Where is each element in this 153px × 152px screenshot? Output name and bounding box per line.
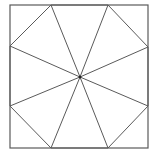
- center-point: [79, 76, 82, 79]
- square-pinwheel-diagram: [0, 0, 153, 152]
